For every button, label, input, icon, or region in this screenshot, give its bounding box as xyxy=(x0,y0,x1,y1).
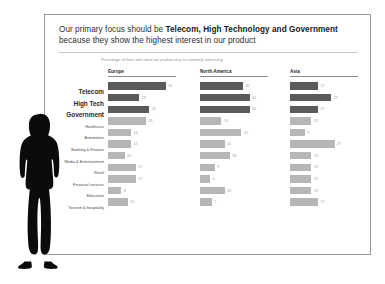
bar-row: 25 xyxy=(200,127,286,139)
bar-row: 25 xyxy=(108,104,194,116)
bar xyxy=(290,129,305,136)
bar xyxy=(290,187,311,194)
bar xyxy=(290,117,311,124)
bar-value-label: 10 xyxy=(127,154,131,158)
bar-row: 15 xyxy=(200,185,286,197)
bar-value-label: 9 xyxy=(307,131,309,135)
panel-rule-asia xyxy=(290,76,358,77)
panel-europe: Europe 351925231414101717812 xyxy=(108,69,194,208)
bar-value-label: 13 xyxy=(314,189,318,193)
bar-value-label: 25 xyxy=(152,107,156,111)
bar-row: 13 xyxy=(290,162,368,174)
bar-row: 14 xyxy=(108,138,194,150)
bar-value-label: 25 xyxy=(334,96,338,100)
bar-row: 25 xyxy=(290,92,368,104)
category-label: High Tech xyxy=(47,98,107,110)
bar xyxy=(290,94,331,101)
bar-value-label: 8 xyxy=(124,189,126,193)
bar xyxy=(200,129,241,136)
bar-value-label: 13 xyxy=(224,119,228,123)
bar xyxy=(290,164,311,171)
bar-value-label: 17 xyxy=(321,84,325,88)
panel-rule-north-america xyxy=(200,76,268,77)
bar-row: 17 xyxy=(108,162,194,174)
bar-row: 17 xyxy=(290,80,368,92)
bar xyxy=(108,82,166,89)
bar xyxy=(290,106,318,113)
bar-value-label: 30 xyxy=(252,107,256,111)
bar-value-label: 19 xyxy=(142,96,146,100)
bar-value-label: 13 xyxy=(314,177,318,181)
panel-header-europe: Europe xyxy=(108,69,194,74)
bar-value-label: 17 xyxy=(321,107,325,111)
bar-row: 10 xyxy=(108,150,194,162)
title-divider xyxy=(59,52,358,53)
bar-row: 35 xyxy=(108,80,194,92)
bar-row: 23 xyxy=(108,115,194,127)
bar xyxy=(108,187,121,194)
bar xyxy=(290,140,335,147)
bar xyxy=(108,140,131,147)
bar-value-label: 30 xyxy=(252,96,256,100)
bar-row: 13 xyxy=(200,115,286,127)
bar-row: 30 xyxy=(200,92,286,104)
bar xyxy=(108,175,136,182)
panel-bars-north-america: 2630301325151896157 xyxy=(200,80,286,208)
bar-value-label: 13 xyxy=(314,119,318,123)
bar-row: 17 xyxy=(290,196,368,208)
title-line-1-emphasis: Telecom, High Technology and Government xyxy=(166,25,338,34)
bar xyxy=(290,175,311,182)
bar xyxy=(108,198,128,205)
bar-row: 6 xyxy=(200,173,286,185)
bar-value-label: 15 xyxy=(227,189,231,193)
bar-value-label: 12 xyxy=(130,200,134,204)
bar-row: 12 xyxy=(108,196,194,208)
bar xyxy=(290,198,318,205)
bar xyxy=(200,198,212,205)
bar-row: 9 xyxy=(290,127,368,139)
bar xyxy=(200,106,250,113)
bar-row: 18 xyxy=(200,150,286,162)
slide-frame: Our primary focus should be Telecom, Hig… xyxy=(44,14,371,255)
bar-row: 13 xyxy=(290,115,368,127)
category-label: Telecom xyxy=(47,86,107,98)
bar xyxy=(108,94,139,101)
panel-bars-europe: 351925231414101717812 xyxy=(108,80,194,208)
bar-row: 14 xyxy=(108,127,194,139)
panel-north-america: North America 2630301325151896157 xyxy=(200,69,286,208)
bar xyxy=(108,164,136,171)
bar-value-label: 23 xyxy=(148,119,152,123)
bar-row: 17 xyxy=(290,104,368,116)
bar xyxy=(108,106,149,113)
bar-value-label: 25 xyxy=(244,131,248,135)
chart-area: TelecomHigh TechGovernmentHealthcareAuto… xyxy=(45,69,372,239)
panel-header-asia: Asia xyxy=(290,69,368,74)
bar-value-label: 17 xyxy=(321,200,325,204)
bar-value-label: 17 xyxy=(139,177,143,181)
bar xyxy=(200,175,210,182)
bar-row: 27 xyxy=(290,138,368,150)
bar-row: 15 xyxy=(200,138,286,150)
bar-row: 17 xyxy=(108,173,194,185)
bar-row: 9 xyxy=(200,162,286,174)
bar-value-label: 27 xyxy=(337,142,341,146)
bar-row: 13 xyxy=(290,150,368,162)
bar-row: 7 xyxy=(200,196,286,208)
bar-value-label: 15 xyxy=(227,142,231,146)
panel-rule-europe xyxy=(108,76,176,77)
bar xyxy=(200,152,230,159)
bar xyxy=(108,129,131,136)
panel-asia: Asia 172517139271313131317 xyxy=(290,69,368,208)
bar-value-label: 14 xyxy=(134,142,138,146)
bar xyxy=(200,94,250,101)
chart-subtitle: Percentage of firms who rated our produc… xyxy=(101,58,223,62)
title-line-2: because they show the highest interest i… xyxy=(59,35,359,46)
bar-value-label: 26 xyxy=(245,84,249,88)
bar-value-label: 35 xyxy=(168,84,172,88)
bar xyxy=(200,164,215,171)
slide-title: Our primary focus should be Telecom, Hig… xyxy=(59,24,359,46)
bar-value-label: 17 xyxy=(139,165,143,169)
bar xyxy=(200,140,225,147)
bar-row: 19 xyxy=(108,92,194,104)
bar xyxy=(200,82,243,89)
